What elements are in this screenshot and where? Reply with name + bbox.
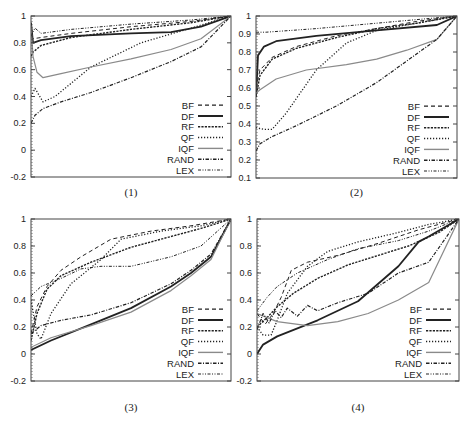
- y-tick-label: 0.8: [13, 241, 26, 251]
- legend-label-df: DF: [181, 315, 194, 326]
- chart-panel-4: 10.80.60.40.20-0.2BFDFRFQFIQFRANDLEX(4): [236, 214, 459, 414]
- y-tick-label: 1: [247, 214, 252, 224]
- y-tick-label: 0.7: [238, 65, 251, 75]
- legend-label-rf: RF: [407, 122, 420, 133]
- series-rf-line: [31, 219, 231, 341]
- legend-label-rand: RAND: [167, 154, 194, 165]
- legend-label-iqf: IQF: [404, 144, 420, 155]
- legend: BFDFRFQFIQFRANDLEX: [393, 101, 449, 177]
- figure: 10.80.60.40.20-0.2BFDFRFQFIQFRANDLEX(1) …: [0, 0, 468, 424]
- legend-label-qf: QF: [409, 336, 422, 347]
- legend-label-lex: LEX: [176, 369, 195, 380]
- y-tick-label: 0.6: [238, 83, 251, 93]
- legend-label-bf: BF: [410, 304, 422, 315]
- legend-label-rand: RAND: [395, 358, 422, 369]
- y-tick-label: 0.8: [13, 38, 26, 48]
- y-tick-label: 0.8: [239, 241, 252, 251]
- legend-label-rand: RAND: [167, 358, 194, 369]
- legend-label-iqf: IQF: [406, 347, 422, 358]
- y-tick-label: 0.4: [13, 92, 26, 102]
- y-tick-label: -0.2: [10, 172, 26, 182]
- series-iqf-line: [256, 16, 457, 93]
- legend-label-df: DF: [407, 112, 420, 123]
- y-tick-label: -0.2: [10, 376, 26, 386]
- legend-label-lex: LEX: [404, 369, 423, 380]
- series-lex-line: [256, 16, 457, 32]
- panel-caption: (1): [125, 186, 138, 199]
- legend-label-qf: QF: [407, 133, 420, 144]
- legend-label-rf: RF: [181, 121, 194, 132]
- legend-label-qf: QF: [181, 336, 194, 347]
- series-df-line: [31, 219, 231, 350]
- legend-label-qf: QF: [181, 132, 194, 143]
- plot-area: [31, 16, 231, 175]
- series-df-line: [257, 219, 459, 354]
- plot-area: [257, 219, 459, 379]
- series-df-line: [256, 16, 457, 97]
- chart-panel-2: 10.90.80.70.60.50.40.30.20.1BFDFRFQFIQFR…: [238, 11, 457, 199]
- legend: BFDFRFQFIQFRANDLEX: [395, 304, 451, 380]
- y-tick-label: 0.4: [13, 295, 26, 305]
- plot-frame: [257, 219, 459, 381]
- y-tick-label: 0.2: [238, 155, 251, 165]
- y-tick-label: 0.6: [13, 268, 26, 278]
- y-tick-label: 0.2: [239, 322, 252, 332]
- y-tick-label: 0.8: [238, 47, 251, 57]
- legend-label-lex: LEX: [402, 166, 421, 177]
- series-rand-line: [31, 16, 231, 123]
- series-lex-line: [31, 219, 231, 296]
- y-tick-label: 0.1: [238, 173, 251, 183]
- legend-label-lex: LEX: [176, 165, 195, 176]
- plot-area: [31, 219, 231, 379]
- legend-label-rf: RF: [181, 325, 194, 336]
- series-qf-line: [31, 219, 231, 339]
- series-rand-line: [256, 16, 457, 151]
- y-tick-label: -0.2: [236, 376, 252, 386]
- y-tick-label: 1: [246, 11, 251, 21]
- legend: BFDFRFQFIQFRANDLEX: [167, 304, 223, 380]
- y-tick-label: 0.9: [238, 29, 251, 39]
- y-tick-label: 0.6: [239, 268, 252, 278]
- panel-caption: (4): [352, 401, 365, 414]
- panel-caption: (2): [350, 186, 363, 199]
- series-rf-line: [256, 16, 457, 97]
- y-tick-label: 1: [21, 214, 26, 224]
- plot-area: [256, 16, 457, 176]
- y-tick-label: 0: [21, 349, 26, 359]
- legend-label-iqf: IQF: [178, 143, 194, 154]
- y-tick-label: 0.2: [13, 118, 26, 128]
- legend-label-df: DF: [181, 111, 194, 122]
- panel-caption: (3): [125, 401, 138, 414]
- y-tick-label: 0.5: [238, 101, 251, 111]
- chart-panel-3: 10.80.60.40.20-0.2BFDFRFQFIQFRANDLEX(3): [10, 214, 231, 414]
- legend-label-df: DF: [409, 315, 422, 326]
- legend-label-bf: BF: [182, 100, 194, 111]
- series-rf-line: [31, 16, 231, 56]
- plot-frame: [31, 219, 231, 381]
- y-tick-label: 0.4: [239, 295, 252, 305]
- series-rf-line: [257, 219, 459, 327]
- legend: BFDFRFQFIQFRANDLEX: [167, 100, 223, 176]
- legend-label-rf: RF: [409, 325, 422, 336]
- chart-panel-1: 10.80.60.40.20-0.2BFDFRFQFIQFRANDLEX(1): [10, 11, 231, 199]
- y-tick-label: 1: [21, 11, 26, 21]
- y-tick-label: 0.4: [238, 119, 251, 129]
- y-tick-label: 0.2: [13, 322, 26, 332]
- y-tick-label: 0: [247, 349, 252, 359]
- y-tick-label: 0: [21, 145, 26, 155]
- legend-label-iqf: IQF: [178, 347, 194, 358]
- legend-label-bf: BF: [408, 101, 420, 112]
- legend-label-bf: BF: [182, 304, 194, 315]
- y-tick-label: 0.6: [13, 65, 26, 75]
- legend-label-rand: RAND: [393, 155, 420, 166]
- series-iqf-line: [31, 219, 231, 347]
- y-tick-label: 0.3: [238, 137, 251, 147]
